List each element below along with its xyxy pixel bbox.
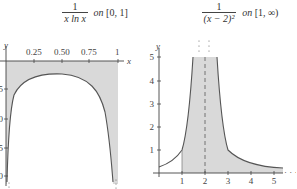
right-continuation-dots — [198, 40, 209, 51]
left-y-tick-minus20: -20 — [0, 171, 3, 181]
left-y-tick-minus10: -10 — [0, 114, 3, 124]
charts-canvas: y x 0.25 0.50 0.75 1 -5 -10 -15 -20 — [0, 0, 296, 189]
right-y-tick-4: 4 — [150, 76, 155, 86]
right-y-axis-label: y — [155, 41, 160, 51]
left-continuation-dots — [8, 179, 116, 188]
right-y-tick-1: 1 — [150, 145, 155, 155]
left-y-tick-minus15: -15 — [0, 143, 3, 153]
left-x-tick-1: 1 — [115, 47, 120, 57]
right-x-tick-3: 3 — [226, 176, 231, 186]
right-x-tick-4: 4 — [249, 176, 254, 186]
left-y-tick-minus5: -5 — [0, 84, 3, 94]
right-x-tick-2: 2 — [203, 176, 208, 186]
left-x-axis-label: x — [126, 56, 131, 66]
right-x-tick-5: 5 — [272, 176, 277, 186]
left-x-tick-0.25: 0.25 — [26, 47, 42, 57]
right-y-tick-3: 3 — [150, 99, 155, 109]
left-x-tick-0.75: 0.75 — [81, 47, 97, 57]
left-shaded-area — [6, 61, 118, 184]
left-chart: y x 0.25 0.50 0.75 1 -5 -10 -15 -20 — [0, 40, 131, 189]
left-y-axis-label: y — [3, 40, 8, 50]
right-y-tick-5: 5 — [150, 52, 155, 62]
right-shaded-area — [182, 57, 283, 173]
right-continuation-marker: · · · — [284, 167, 296, 177]
right-y-tick-2: 2 — [150, 122, 155, 132]
right-chart: y · · · 1 2 3 4 5 1 2 3 4 5 — [150, 40, 297, 186]
right-x-tick-1: 1 — [180, 176, 185, 186]
left-x-tick-0.50: 0.50 — [54, 47, 70, 57]
